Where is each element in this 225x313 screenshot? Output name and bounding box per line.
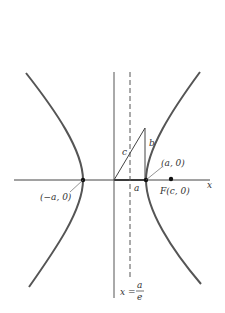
c-label: c bbox=[122, 147, 127, 157]
focus-point bbox=[169, 177, 173, 181]
b-label: b bbox=[149, 138, 155, 148]
a-tick-label: a bbox=[134, 183, 139, 193]
directrix-equation-lhs: x = bbox=[120, 287, 135, 297]
hyperbola-diagram: x (−a, 0) (a, 0) F(c, 0) c b a x = a e bbox=[0, 0, 225, 313]
right-vertex-leader bbox=[146, 167, 162, 180]
x-axis-label: x bbox=[207, 180, 212, 190]
right-vertex-label: (a, 0) bbox=[161, 158, 185, 168]
hyperbola-right-branch bbox=[146, 72, 201, 284]
directrix-numerator: a bbox=[137, 280, 142, 290]
directrix-denominator: e bbox=[137, 292, 142, 302]
focus-label: F(c, 0) bbox=[159, 186, 190, 196]
left-vertex-label: (−a, 0) bbox=[40, 192, 72, 202]
